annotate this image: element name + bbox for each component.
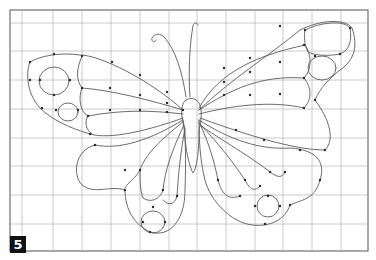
anchor-dot: [314, 99, 316, 101]
anchor-dot: [264, 223, 266, 225]
anchor-dot: [303, 44, 305, 46]
anchor-dot: [299, 149, 301, 151]
anchor-dot: [279, 93, 281, 95]
anchor-dot: [53, 53, 55, 55]
anchor-dot: [166, 102, 168, 104]
anchor-dot: [254, 205, 256, 207]
anchor-dot: [263, 139, 265, 141]
anchor-dot: [69, 79, 71, 81]
anchor-dot: [314, 55, 316, 57]
anchor-dot: [279, 61, 281, 63]
anchor-dot: [269, 171, 271, 173]
anchor-dot: [109, 109, 111, 111]
anchor-dot: [259, 185, 261, 187]
anchor-dot: [279, 25, 281, 27]
anchor-dot: [304, 29, 306, 31]
anchor-dot: [29, 79, 31, 81]
anchor-dot: [284, 171, 286, 173]
anchor-dot: [289, 204, 291, 206]
anchor-dot: [166, 111, 168, 113]
anchor-dot: [41, 107, 43, 109]
anchor-dot: [89, 133, 91, 135]
anchor-dot: [319, 179, 321, 181]
anchor-dot: [109, 87, 111, 89]
anchor-dot: [223, 94, 225, 96]
anchor-dot: [53, 94, 55, 96]
anchor-dot: [94, 144, 96, 146]
anchor-dot: [223, 81, 225, 83]
drawing-frame: [10, 10, 368, 251]
anchor-dot: [111, 61, 113, 63]
anchor-dot: [139, 169, 141, 171]
anchor-dot: [303, 77, 305, 79]
anchor-dot: [149, 231, 151, 233]
anchor-dot: [267, 195, 269, 197]
anchor-dot: [139, 109, 141, 111]
anchor-dot: [249, 71, 251, 73]
anchor-dot: [139, 74, 141, 76]
anchor-dot: [142, 221, 144, 223]
anchor-dot: [279, 205, 281, 207]
anchor-dot: [249, 94, 251, 96]
anchor-dot: [162, 189, 164, 191]
anchor-dot: [81, 55, 83, 57]
anchor-dot: [29, 61, 31, 63]
anchor-dot: [81, 87, 83, 89]
anchor-dot: [324, 149, 326, 151]
anchor-dot: [152, 206, 154, 208]
anchor-dot: [182, 109, 184, 111]
anchor-dot: [166, 91, 168, 93]
anchor-dot: [244, 179, 246, 181]
anchor-dot: [217, 179, 219, 181]
anchor-dot: [164, 221, 166, 223]
anchor-dot: [303, 107, 305, 109]
anchor-dot: [124, 169, 126, 171]
anchor-dot: [249, 57, 251, 59]
anchor-dot: [176, 195, 178, 197]
anchor-dot: [223, 67, 225, 69]
anchor-dot: [139, 94, 141, 96]
butterfly-grid-drawing: [0, 0, 376, 260]
anchor-dot: [235, 129, 237, 131]
anchor-dot: [239, 195, 241, 197]
anchor-dot: [77, 109, 79, 111]
step-number-badge: 5: [10, 236, 26, 253]
anchor-dot: [39, 79, 41, 81]
anchor-dot: [87, 115, 89, 117]
anchor-dot: [55, 109, 57, 111]
anchor-dot: [339, 53, 341, 55]
anchor-dot: [124, 189, 126, 191]
anchor-dot: [349, 27, 351, 29]
